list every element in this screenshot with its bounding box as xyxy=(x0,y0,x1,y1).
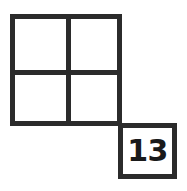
grid-block-2x2 xyxy=(10,14,122,126)
detached-numbered-square[interactable]: 13 xyxy=(118,123,177,179)
grid-cell-bottom-right[interactable] xyxy=(66,70,117,121)
puzzle-canvas: 13 xyxy=(0,0,187,191)
grid-divider-horizontal xyxy=(15,70,117,75)
grid-cell-top-left[interactable] xyxy=(15,19,66,70)
detached-square-label: 13 xyxy=(127,136,168,166)
grid-cell-bottom-left[interactable] xyxy=(15,70,66,121)
grid-cell-top-right[interactable] xyxy=(66,19,117,70)
